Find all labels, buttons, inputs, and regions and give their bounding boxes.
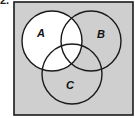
- venn-diagram: A B C: [0, 0, 135, 118]
- set-a-label: A: [36, 27, 45, 39]
- set-b-label: B: [97, 28, 105, 40]
- set-c-label: C: [66, 79, 75, 91]
